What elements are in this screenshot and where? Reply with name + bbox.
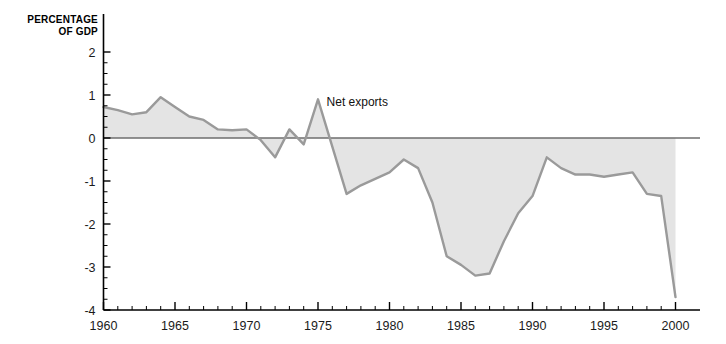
- y-tick-label--3: -3: [84, 261, 95, 275]
- y-tick-label--2: -2: [84, 218, 95, 232]
- x-tick-label-1975: 1975: [304, 319, 332, 333]
- x-tick-label-1965: 1965: [161, 319, 189, 333]
- y-tick-label-1: 1: [89, 89, 96, 103]
- x-tick-label-1960: 1960: [90, 319, 118, 333]
- area-fill: [104, 97, 676, 297]
- x-tick-label-1980: 1980: [376, 319, 404, 333]
- x-tick-label-1970: 1970: [233, 319, 261, 333]
- y-tick-label--4: -4: [84, 304, 95, 318]
- y-tick-label-2: 2: [89, 46, 96, 60]
- series-annotation-0: Net exports: [327, 95, 388, 109]
- x-tick-label-1995: 1995: [590, 319, 618, 333]
- x-tick-label-1985: 1985: [447, 319, 475, 333]
- x-tick-label-1990: 1990: [519, 319, 547, 333]
- x-tick-label-2000: 2000: [662, 319, 690, 333]
- y-tick-label-0: 0: [89, 132, 96, 146]
- chart-canvas: 210-1-2-3-419601965197019751980198519901…: [0, 0, 726, 344]
- y-tick-label--1: -1: [84, 175, 95, 189]
- net-exports-chart: PERCENTAGE OF GDP 210-1-2-3-419601965197…: [0, 0, 726, 344]
